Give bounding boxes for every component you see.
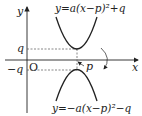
lower-parabola (56, 70, 97, 102)
y-axis-label: y (16, 5, 24, 18)
upper-parabola (56, 17, 97, 49)
symmetry-arrow-icon (101, 48, 107, 69)
p-label: p (86, 60, 93, 73)
parabola-diagram: y x O q −q p y=a(x−p)²+q y=−a(x−p)²−q (0, 0, 142, 116)
upper-equation: y=a(x−p)²+q (54, 2, 126, 14)
origin-label: O (29, 61, 38, 74)
x-axis-label: x (132, 61, 139, 74)
q-label: q (17, 42, 24, 55)
lower-equation: y=−a(x−p)²−q (51, 102, 131, 114)
p-pointer (78, 62, 84, 66)
neg-q-label: −q (7, 63, 23, 76)
